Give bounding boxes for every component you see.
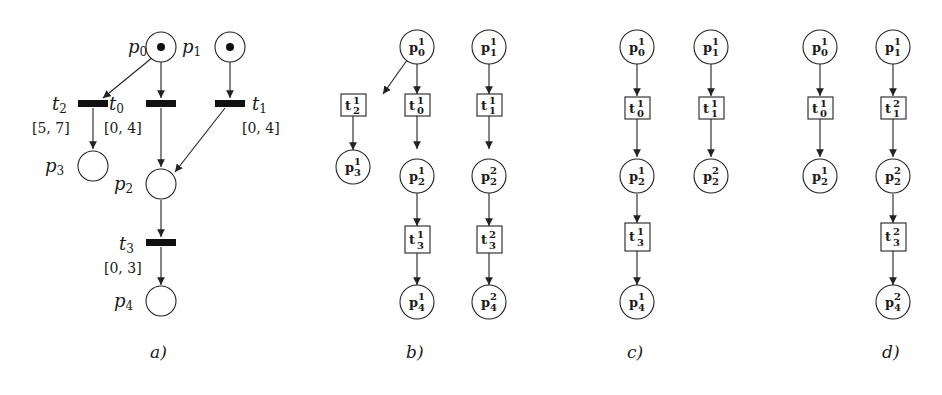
svg-text:1: 1 (490, 47, 497, 58)
place-p4: p4 (114, 286, 176, 316)
panel-c-process: p 1 0 p 1 1 t 1 0 t 1 1 p 1 2 p 2 2 t 1 … (620, 30, 728, 362)
node-t1-2: t 2 1 (881, 97, 906, 119)
node-p4-2: p 2 4 (876, 285, 910, 319)
svg-text:[0, 4]: [0, 4] (242, 120, 280, 136)
svg-text:p: p (703, 40, 712, 55)
svg-text:1: 1 (638, 165, 645, 176)
svg-text:2: 2 (894, 291, 901, 302)
svg-text:2: 2 (353, 105, 360, 116)
svg-text:1: 1 (821, 36, 828, 47)
svg-text:p: p (885, 40, 894, 55)
node-p2-2: p 2 2 (472, 159, 506, 193)
svg-text:1: 1 (712, 36, 719, 47)
node-p0-1: p 1 0 (620, 30, 654, 64)
node-p1-1: p 1 1 (694, 30, 728, 64)
svg-text:1: 1 (418, 291, 425, 302)
svg-text:2: 2 (894, 176, 901, 187)
svg-text:1: 1 (354, 156, 361, 167)
svg-text:1: 1 (417, 229, 424, 240)
svg-text:2: 2 (638, 176, 645, 187)
svg-text:p: p (885, 169, 894, 184)
svg-text:2: 2 (418, 176, 425, 187)
svg-text:2: 2 (894, 165, 901, 176)
svg-text:p: p (481, 295, 490, 310)
svg-text:p: p (885, 295, 894, 310)
place-p2: p2 (114, 169, 176, 199)
svg-text:3: 3 (417, 240, 424, 251)
node-p2-2: p 2 2 (694, 159, 728, 193)
svg-text:p: p (629, 40, 638, 55)
node-t0-1: t 1 0 (808, 97, 833, 119)
svg-text:4: 4 (490, 302, 497, 313)
caption-c: c) (627, 342, 643, 362)
transition-t0: t0 [0, 4] (104, 93, 176, 136)
svg-text:1: 1 (489, 105, 496, 116)
place-p0: p0 (128, 32, 176, 62)
svg-text:p: p (812, 169, 821, 184)
svg-text:t: t (481, 98, 487, 113)
panel-d-process: p 1 0 p 1 1 t 1 0 t 2 1 p 1 2 p 2 2 t 2 … (803, 30, 910, 362)
node-p1-1: p 1 1 (876, 30, 910, 64)
svg-text:2: 2 (490, 176, 497, 187)
svg-text:3: 3 (489, 240, 496, 251)
node-t3-1: t 1 3 (405, 226, 430, 253)
node-p2-1: p 1 2 (400, 159, 434, 193)
svg-text:p0: p0 (128, 36, 147, 59)
svg-text:2: 2 (712, 165, 719, 176)
svg-text:p2: p2 (114, 173, 133, 196)
node-p1-1: p 1 1 (472, 30, 506, 64)
svg-text:1: 1 (638, 291, 645, 302)
svg-text:p: p (409, 40, 418, 55)
svg-text:t: t (629, 229, 635, 244)
node-t3-1: t 1 3 (625, 223, 650, 251)
panel-a-petri-net: p0 p1 p3 p2 p4 t2 [5, 7] t0 [0, 4] (32, 32, 280, 362)
caption-d: d) (882, 342, 900, 362)
svg-text:1: 1 (418, 165, 425, 176)
svg-text:t: t (409, 232, 415, 247)
svg-text:0: 0 (637, 108, 644, 119)
svg-text:3: 3 (893, 237, 900, 248)
svg-text:1: 1 (418, 36, 425, 47)
caption-b: b) (406, 342, 424, 362)
svg-text:p3: p3 (45, 155, 64, 178)
svg-text:p: p (409, 169, 418, 184)
svg-text:1: 1 (490, 36, 497, 47)
svg-text:t: t (345, 98, 351, 113)
arc-t1-p2 (175, 108, 225, 172)
transition-t1: t1 [0, 4] (215, 93, 280, 136)
svg-text:4: 4 (638, 302, 645, 313)
place-p1: p1 (182, 32, 245, 62)
svg-text:0: 0 (418, 47, 425, 58)
token-icon (226, 43, 234, 51)
node-t2-1: t 1 2 (341, 94, 366, 116)
svg-text:2: 2 (489, 229, 496, 240)
node-p4-1: p 1 4 (400, 285, 434, 319)
svg-text:1: 1 (638, 36, 645, 47)
svg-text:t: t (885, 101, 891, 116)
svg-text:p: p (703, 169, 712, 184)
svg-text:t1: t1 (252, 93, 267, 116)
svg-text:[0, 4]: [0, 4] (104, 120, 142, 136)
svg-text:3: 3 (354, 167, 361, 178)
transition-t2: t2 [5, 7] (32, 93, 108, 136)
svg-text:1: 1 (894, 36, 901, 47)
node-p4-1: p 1 4 (620, 285, 654, 319)
svg-text:1: 1 (894, 47, 901, 58)
node-t0-1: t 1 0 (625, 97, 650, 119)
svg-text:2: 2 (490, 291, 497, 302)
svg-text:1: 1 (712, 47, 719, 58)
svg-text:2: 2 (821, 176, 828, 187)
svg-text:t3: t3 (119, 233, 134, 256)
node-t1-1: t 1 1 (699, 97, 724, 119)
svg-text:p: p (345, 160, 354, 175)
svg-text:4: 4 (894, 302, 901, 313)
svg-text:4: 4 (418, 302, 425, 313)
node-p2-2: p 2 2 (876, 159, 910, 193)
node-p0-1: p 1 0 (400, 30, 434, 64)
svg-text:p: p (629, 295, 638, 310)
node-p3-1: p 1 3 (336, 150, 370, 184)
svg-text:p: p (409, 295, 418, 310)
node-p2-1: p 1 2 (620, 159, 654, 193)
svg-text:1: 1 (893, 108, 900, 119)
svg-text:t: t (409, 98, 415, 113)
